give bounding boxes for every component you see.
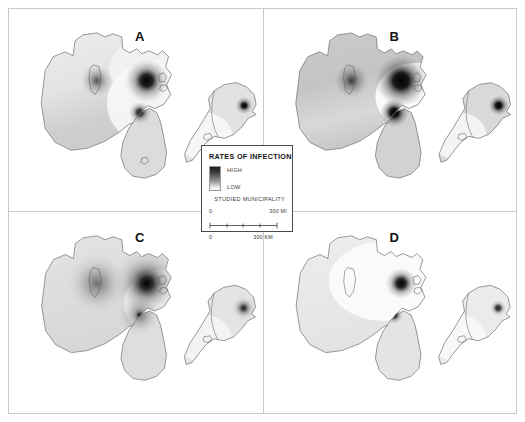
- map-figure: A: [0, 0, 525, 422]
- map-legend: RATES OF INFECTION HIGH LOW STUDIED MUNI…: [201, 145, 293, 232]
- scale-km-max: 300 KM: [253, 234, 273, 240]
- panel-c[interactable]: C: [8, 211, 263, 414]
- legend-title: RATES OF INFECTION: [209, 152, 285, 161]
- panel-letter-a: A: [135, 29, 145, 44]
- scale-mi-zero: 0: [209, 208, 212, 214]
- panel-letter-b: B: [390, 29, 400, 44]
- scale-bar-graphic: [209, 222, 287, 229]
- scale-bar-km-labels: 0 300 KM: [209, 234, 287, 240]
- legend-ramp-row: HIGH LOW: [209, 166, 285, 191]
- legend-high-label: HIGH: [227, 167, 242, 173]
- scale-km-zero: 0: [209, 234, 212, 240]
- legend-low-label: LOW: [227, 184, 242, 190]
- panel-letter-d: D: [390, 230, 400, 245]
- scale-bar: 0 300 MI 0 300 KM: [209, 208, 287, 240]
- legend-municipality-label: STUDIED MUNICIPALITY: [214, 196, 285, 202]
- infection-rate-gradient-swatch: [209, 166, 221, 191]
- legend-ramp-labels: HIGH LOW: [227, 166, 242, 191]
- scale-bar-miles-labels: 0 300 MI: [209, 208, 287, 214]
- panel-letter-c: C: [135, 230, 145, 245]
- panel-b[interactable]: B: [263, 8, 518, 211]
- legend-municipality-row: STUDIED MUNICIPALITY: [209, 195, 285, 203]
- scale-mi-max: 300 MI: [269, 208, 287, 214]
- panel-d[interactable]: D: [263, 211, 518, 414]
